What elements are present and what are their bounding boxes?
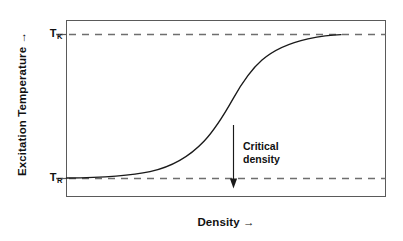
annotation-critical-density: Critical density	[243, 140, 280, 165]
sigmoid-curve	[67, 35, 342, 178]
y-tick-label-tk-base: T	[50, 27, 57, 39]
x-axis-title: Density →	[66, 216, 386, 228]
figure-canvas: TK TR Critical density Excitation Temper…	[0, 0, 403, 241]
y-tick-label-tk-subscript: K	[57, 32, 62, 41]
critical-density-arrowhead	[230, 179, 237, 189]
annotation-critical-density-line2: density	[243, 153, 280, 166]
y-axis-title: Excitation Temperature →	[16, 11, 28, 197]
annotation-critical-density-line1: Critical	[243, 140, 280, 153]
y-tick-label-tr-base: T	[50, 171, 57, 183]
y-tick-label-tr-subscript: R	[57, 176, 62, 185]
y-tick-label-tr: TR	[40, 171, 62, 183]
y-tick-label-tk: TK	[40, 27, 62, 39]
